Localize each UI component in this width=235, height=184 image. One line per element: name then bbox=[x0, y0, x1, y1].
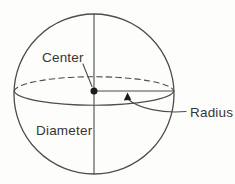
radius-leader-line bbox=[128, 100, 186, 112]
center-label: Center bbox=[42, 50, 84, 65]
sphere-diagram-svg: Center Radius Diameter bbox=[0, 0, 235, 184]
diameter-label: Diameter bbox=[36, 123, 93, 138]
center-dot bbox=[91, 88, 98, 95]
center-leader-line bbox=[83, 64, 92, 87]
radius-arrowhead-icon bbox=[124, 93, 132, 101]
radius-label: Radius bbox=[190, 105, 233, 120]
sphere-diagram: Center Radius Diameter bbox=[0, 0, 235, 184]
